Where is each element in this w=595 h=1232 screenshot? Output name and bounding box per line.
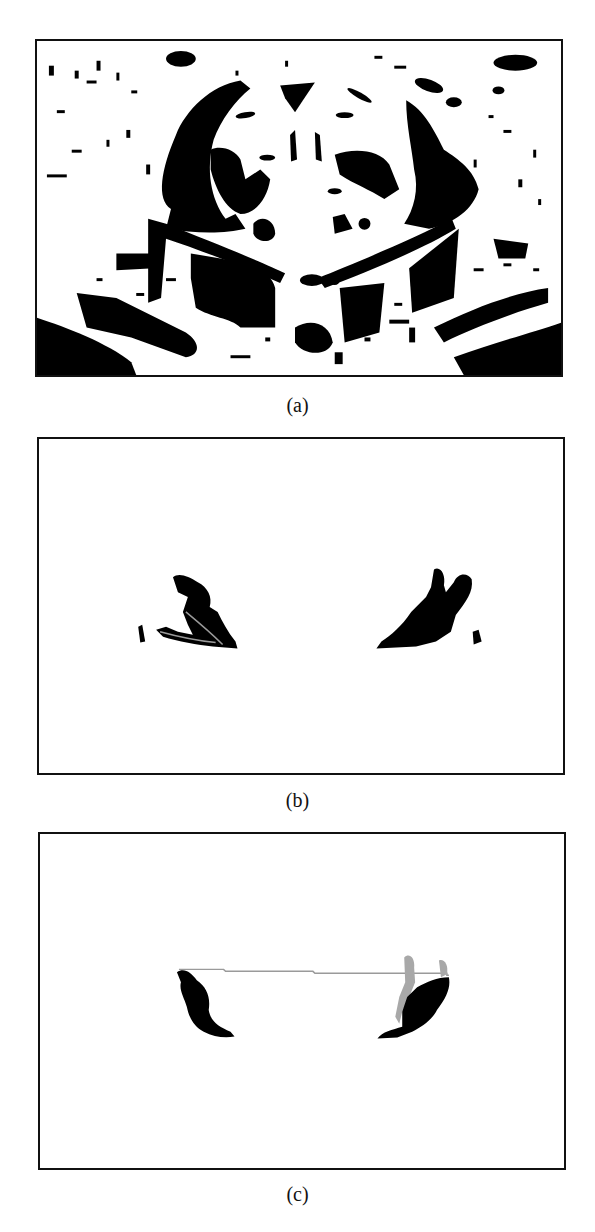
caption-b: (b) <box>0 789 595 812</box>
binary-dome-image <box>37 41 561 375</box>
panel-b-image <box>37 437 565 775</box>
extracted-edges-image <box>39 439 563 773</box>
panel-c-image <box>38 832 566 1170</box>
panel-a-image <box>35 39 563 377</box>
caption-c: (c) <box>0 1183 595 1206</box>
fitted-dome-base-image <box>40 834 564 1168</box>
caption-a: (a) <box>0 394 595 417</box>
